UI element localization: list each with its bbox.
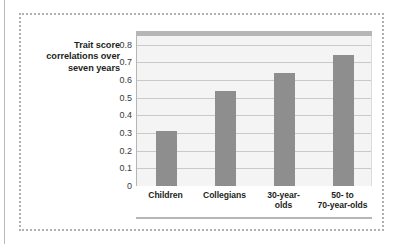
y-axis-tick-label: 0.4	[106, 110, 132, 120]
bar	[215, 91, 236, 186]
x-axis-category-labels: ChildrenCollegians30-year-olds50- to70-y…	[136, 190, 372, 224]
bar	[156, 131, 177, 186]
x-axis-category-label-line: 50- to	[313, 190, 372, 200]
bar	[333, 55, 354, 186]
gridline	[137, 45, 371, 46]
plot-inner	[136, 36, 372, 186]
y-axis-tick-label: 0.5	[106, 93, 132, 103]
y-axis-tick-label: 0	[106, 181, 132, 191]
y-axis-tick-label: 0.2	[106, 146, 132, 156]
bar-chart: Trait score correlations over seven year…	[0, 0, 403, 244]
x-axis-category-label: 50- to70-year-olds	[313, 190, 372, 211]
y-axis-tick-label: 0.6	[106, 75, 132, 85]
x-axis-category-label-line: 30-year-	[254, 190, 313, 200]
y-axis-tick-label: 0.7	[106, 57, 132, 67]
y-axis-tick-labels: 00.10.20.30.40.50.60.70.8	[104, 31, 132, 186]
y-axis-tick-label: 0.1	[106, 163, 132, 173]
x-axis-category-label-line: Collegians	[195, 190, 254, 200]
y-axis-tick-label: 0.8	[106, 40, 132, 50]
x-axis-category-label: 30-year-olds	[254, 190, 313, 211]
x-axis-category-label: Collegians	[195, 190, 254, 200]
x-axis-category-label-line: olds	[254, 200, 313, 210]
bar	[274, 73, 295, 186]
x-axis-category-label: Children	[136, 190, 195, 200]
x-axis-category-label-line: 70-year-olds	[313, 200, 372, 210]
x-axis-category-label-line: Children	[136, 190, 195, 200]
plot-area	[136, 31, 372, 186]
y-axis-tick-label: 0.3	[106, 128, 132, 138]
